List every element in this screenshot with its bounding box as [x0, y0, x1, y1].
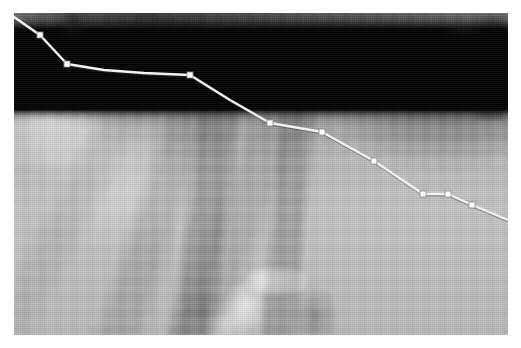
traced-boundary-overlay[interactable]	[14, 13, 508, 335]
vertex-handle-8[interactable]	[445, 191, 451, 197]
traced-boundary-shadow	[15, 18, 508, 221]
vertex-handle-5[interactable]	[319, 129, 325, 135]
image-annotation-viewer	[0, 0, 521, 348]
trace-shadow-group	[15, 18, 508, 221]
trace-stroke-group	[14, 17, 508, 220]
vertex-handle-group[interactable]	[37, 32, 475, 208]
vertex-handle-4[interactable]	[267, 120, 273, 126]
vertex-handle-9[interactable]	[469, 202, 475, 208]
grayscale-terrain-photo[interactable]	[14, 13, 508, 335]
vertex-handle-1[interactable]	[37, 32, 43, 38]
vertex-handle-7[interactable]	[420, 191, 426, 197]
traced-boundary-line[interactable]	[14, 17, 508, 220]
vertex-handle-6[interactable]	[371, 158, 377, 164]
vertex-handle-3[interactable]	[187, 72, 193, 78]
vertex-handle-2[interactable]	[64, 61, 70, 67]
